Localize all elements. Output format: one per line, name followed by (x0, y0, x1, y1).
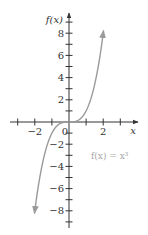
x-axis-label: x (130, 125, 136, 136)
y-tick-label: 8 (58, 28, 64, 39)
axes (10, 13, 138, 228)
x-tick-label: 2 (100, 126, 106, 137)
y-tick-label: −2 (49, 139, 64, 150)
x-tick-label: −2 (27, 126, 42, 137)
y-tick-label: 2 (58, 94, 64, 105)
y-tick-label: −4 (49, 161, 64, 172)
y-axis-label: f(x) (45, 14, 63, 25)
y-tick-label: −8 (49, 205, 64, 216)
origin-label: 0 (62, 126, 68, 137)
cubic-function-graph: −228642−2−4−6−80 f(x) x f(x) = x³ (0, 0, 148, 235)
y-tick-label: −6 (49, 183, 64, 194)
function-annotation: f(x) = x³ (91, 151, 129, 161)
y-tick-label: 6 (58, 50, 64, 61)
y-tick-label: 4 (58, 72, 64, 83)
